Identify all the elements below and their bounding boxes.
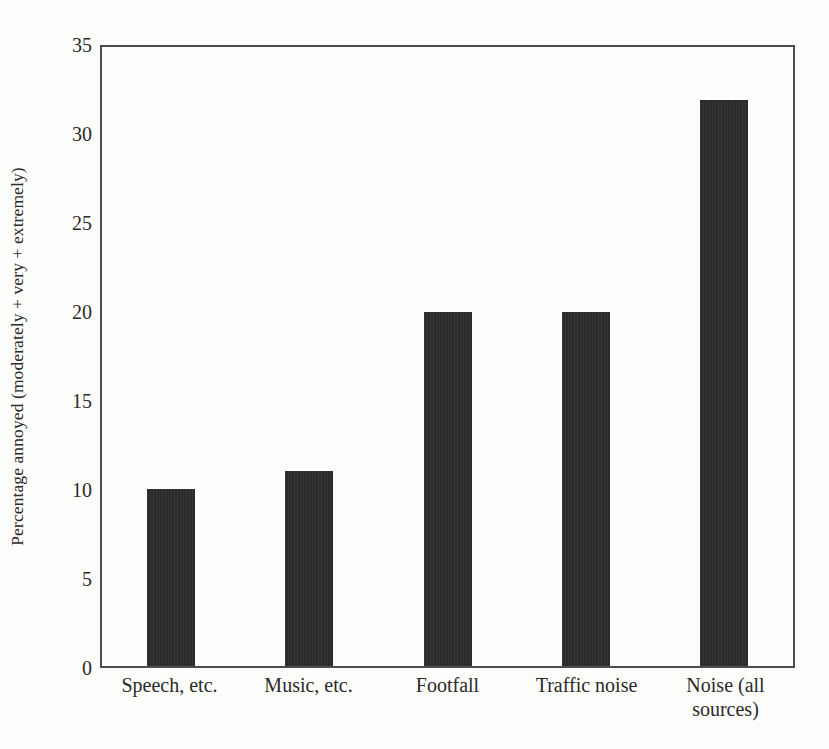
y-axis-title: Percentage annoyed (moderately + very + … — [0, 45, 34, 668]
y-axis-tick-labels: 05101520253035 — [42, 0, 92, 749]
x-tick-label-line: Traffic noise — [536, 674, 638, 696]
x-tick-label: Noise (allsources) — [656, 673, 795, 743]
bar-slot — [655, 47, 793, 666]
bar[interactable] — [424, 312, 472, 666]
y-tick-label: 35 — [46, 35, 92, 55]
x-tick-label: Music, etc. — [239, 673, 378, 743]
y-tick-label: 10 — [46, 480, 92, 500]
x-tick-label-line: sources) — [656, 697, 795, 721]
bar-slot — [517, 47, 655, 666]
y-tick-label: 0 — [46, 658, 92, 678]
x-tick-label: Traffic noise — [517, 673, 656, 743]
bar-slot — [102, 47, 240, 666]
x-tick-label-line: Footfall — [416, 674, 479, 696]
bar[interactable] — [285, 471, 333, 666]
x-tick-label-line: Music, etc. — [264, 674, 352, 696]
x-tick-label-line: Noise (all — [686, 674, 764, 696]
bar-series — [102, 47, 793, 666]
plot-area — [100, 45, 795, 668]
bar-slot — [240, 47, 378, 666]
y-tick-label: 20 — [46, 302, 92, 322]
x-tick-label: Footfall — [378, 673, 517, 743]
y-tick-label: 15 — [46, 391, 92, 411]
bar[interactable] — [562, 312, 610, 666]
bar[interactable] — [700, 100, 748, 666]
y-tick-label: 30 — [46, 124, 92, 144]
y-tick-label: 25 — [46, 213, 92, 233]
x-tick-label-line: Speech, etc. — [121, 674, 217, 696]
bar-chart-figure: Percentage annoyed (moderately + very + … — [0, 0, 829, 749]
y-tick-label: 5 — [46, 569, 92, 589]
bar-slot — [378, 47, 516, 666]
bar[interactable] — [147, 489, 195, 666]
x-axis-tick-labels: Speech, etc.Music, etc.FootfallTraffic n… — [100, 673, 795, 743]
x-tick-label: Speech, etc. — [100, 673, 239, 743]
